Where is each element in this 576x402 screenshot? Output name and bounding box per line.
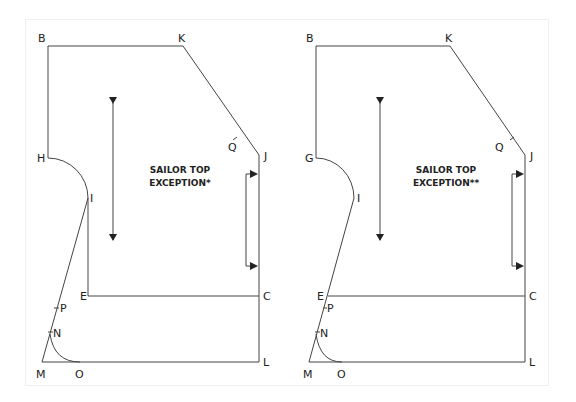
label-q: Q	[495, 141, 504, 154]
label-k: K	[178, 32, 186, 45]
label-p: P	[60, 302, 67, 315]
title-line2-left: EXCEPTION*	[149, 178, 211, 188]
label-q: Q	[228, 141, 237, 154]
label-m: M	[36, 368, 46, 381]
pattern-piece-left: SAILOR TOP EXCEPTION* B K Q J H I E C P …	[36, 32, 271, 381]
pattern-piece-right: SAILOR TOP EXCEPTION** B K Q J G I E C P…	[303, 32, 537, 381]
tick-q-left	[233, 137, 237, 140]
title-line1-left: SAILOR TOP	[150, 165, 211, 175]
label-k: K	[445, 32, 453, 45]
fold-arrow-top-right-icon	[516, 170, 524, 178]
label-l: L	[263, 356, 270, 369]
label-b: B	[38, 32, 46, 45]
outline-left	[42, 46, 259, 362]
inner-line-left	[88, 198, 259, 296]
fold-arrow-bottom-right-icon	[516, 262, 524, 270]
label-h: H	[37, 152, 45, 165]
pattern-diagram: SAILOR TOP EXCEPTION* B K Q J H I E C P …	[0, 0, 576, 402]
label-p: P	[327, 302, 334, 315]
label-o: O	[75, 368, 84, 381]
title-line1-right: SAILOR TOP	[416, 165, 477, 175]
label-e: E	[80, 290, 87, 303]
label-c: C	[529, 290, 537, 303]
label-j: J	[529, 150, 533, 163]
fold-arrow-bottom-left-icon	[250, 262, 258, 270]
label-n: N	[320, 327, 328, 340]
label-j: J	[263, 150, 267, 163]
label-i: I	[90, 192, 93, 205]
label-o: O	[337, 368, 346, 381]
label-l: L	[529, 356, 536, 369]
fold-bracket-right	[512, 174, 522, 266]
label-m: M	[303, 368, 313, 381]
label-b: B	[306, 32, 314, 45]
title-line2-right: EXCEPTION**	[413, 178, 479, 188]
fold-bracket-left	[246, 174, 256, 266]
fold-arrow-top-left-icon	[250, 170, 258, 178]
label-g: G	[305, 152, 314, 165]
label-e: E	[317, 290, 324, 303]
outline-right	[309, 46, 525, 362]
label-i: I	[357, 192, 360, 205]
label-n: N	[53, 327, 61, 340]
label-c: C	[263, 290, 271, 303]
